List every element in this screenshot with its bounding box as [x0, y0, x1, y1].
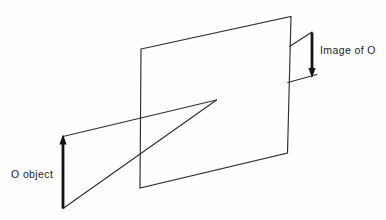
plane-surface [140, 17, 291, 189]
image-arrow [308, 33, 315, 79]
image-label: Image of O [320, 44, 376, 56]
ray-from-object-top [63, 100, 217, 137]
object-image-plane-diagram: O object Image of O [0, 0, 386, 220]
image-projection-top-line [290, 32, 313, 47]
object-arrow [59, 135, 66, 209]
figure-canvas: O object Image of O [0, 0, 386, 220]
object-label: O object [11, 168, 53, 180]
ray-from-object-bottom [63, 100, 217, 209]
